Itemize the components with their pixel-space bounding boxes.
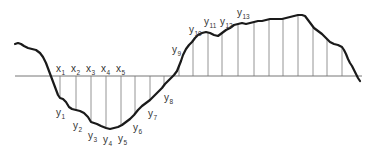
ordinate-diagram: x1x2x3x4x5 y1y2y3y4y5y6y7y8y9y10y11y12y1… [0, 0, 373, 152]
y-label-5: y5 [118, 133, 128, 146]
y-label-7: y7 [148, 108, 158, 121]
y-label-9: y9 [172, 44, 182, 57]
y-label-12: y12 [220, 16, 233, 29]
x-label-4: x4 [101, 63, 111, 76]
y-label-10: y10 [189, 24, 202, 37]
x-label-1: x1 [56, 63, 66, 76]
y-label-8: y8 [164, 92, 174, 105]
x-label-3: x3 [86, 63, 96, 76]
y-labels: y1y2y3y4y5y6y7y8y9y10y11y12y13 [56, 7, 250, 147]
y-label-3: y3 [88, 130, 98, 143]
x-label-5: x5 [116, 63, 126, 76]
y-label-2: y2 [73, 120, 83, 133]
x-labels: x1x2x3x4x5 [56, 63, 126, 76]
y-label-13: y13 [237, 7, 250, 20]
y-label-6: y6 [133, 122, 143, 135]
x-label-2: x2 [71, 63, 81, 76]
y-label-1: y1 [56, 107, 66, 120]
function-curve [15, 15, 360, 129]
y-label-4: y4 [103, 134, 113, 147]
y-label-11: y11 [204, 16, 217, 29]
